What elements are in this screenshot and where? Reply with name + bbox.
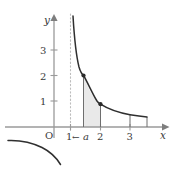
point-at-a — [81, 73, 85, 77]
function-graph: y x O 1 2 3 1 2 3 ← a — [0, 0, 176, 170]
origin-label: O — [45, 130, 53, 141]
x-axis-label: x — [160, 129, 166, 141]
y-tick-label-3: 3 — [40, 45, 46, 56]
x-tick-label-2: 2 — [97, 131, 103, 142]
a-left-arrow-icon: ← — [72, 132, 80, 142]
a-symbol-label: a — [83, 131, 89, 142]
figure-container: y x O 1 2 3 1 2 3 ← a — [0, 0, 176, 170]
y-axis-arrow-icon — [50, 14, 57, 21]
x-tick-label-3: 3 — [127, 131, 133, 142]
curve-left-branch — [8, 140, 61, 164]
point-at-2 — [98, 102, 102, 106]
y-axis-label: y — [43, 14, 51, 26]
y-tick-label-1: 1 — [40, 96, 46, 107]
y-tick-label-2: 2 — [40, 71, 46, 82]
